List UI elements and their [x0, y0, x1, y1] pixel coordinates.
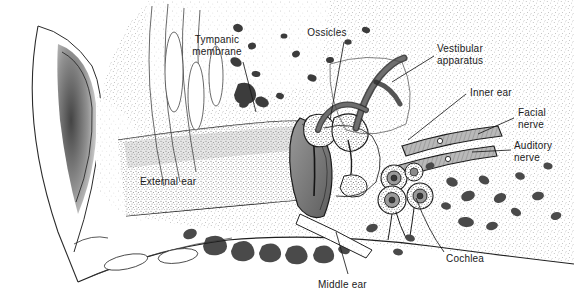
label-tympanic-membrane: Tympanic membrane [181, 34, 253, 57]
ear-anatomy-figure: Tympanic membrane Ossicles Vestibular ap… [0, 0, 574, 301]
label-facial-nerve: Facial nerve [518, 107, 572, 130]
label-ossicles: Ossicles [296, 27, 358, 39]
label-vestibular-apparatus: Vestibular apparatus [437, 43, 515, 66]
label-auditory-nerve: Auditory nerve [514, 140, 572, 163]
label-external-ear: External ear [140, 176, 220, 188]
label-inner-ear: Inner ear [470, 87, 540, 99]
label-cochlea: Cochlea [446, 253, 506, 265]
label-middle-ear: Middle ear [318, 279, 388, 291]
